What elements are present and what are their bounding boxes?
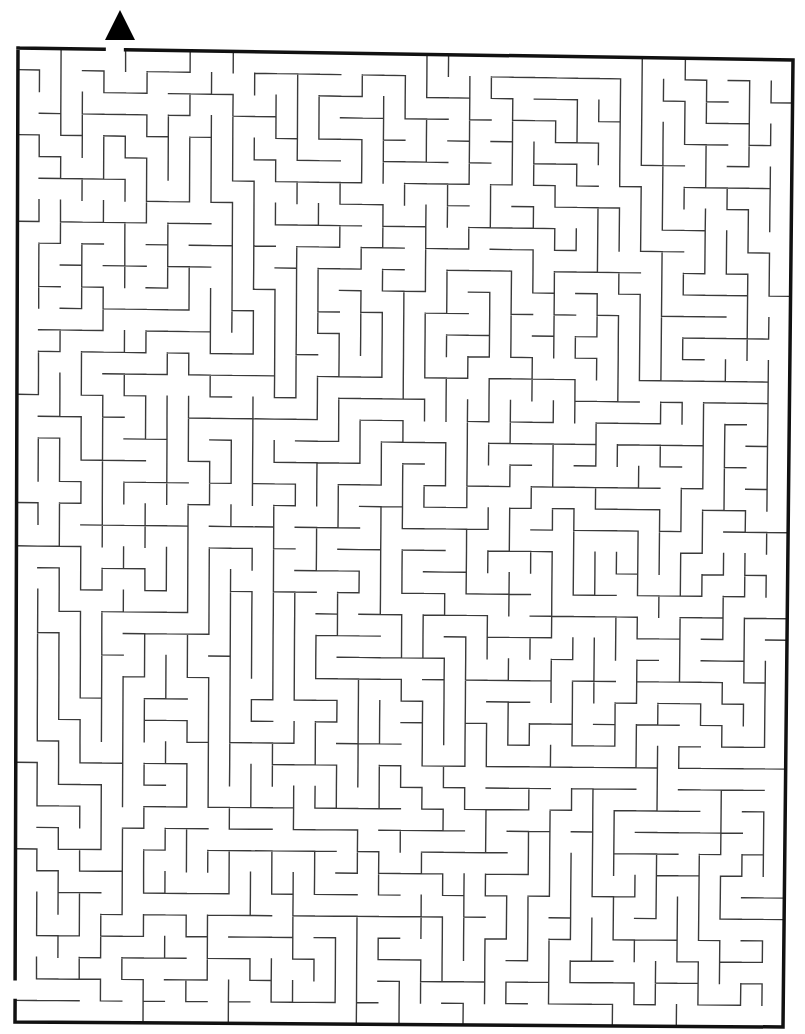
maze-canvas — [0, 0, 805, 1034]
start-arrow-icon — [105, 10, 135, 40]
inner-walls — [15, 49, 793, 1027]
maze-walls — [15, 49, 793, 1027]
